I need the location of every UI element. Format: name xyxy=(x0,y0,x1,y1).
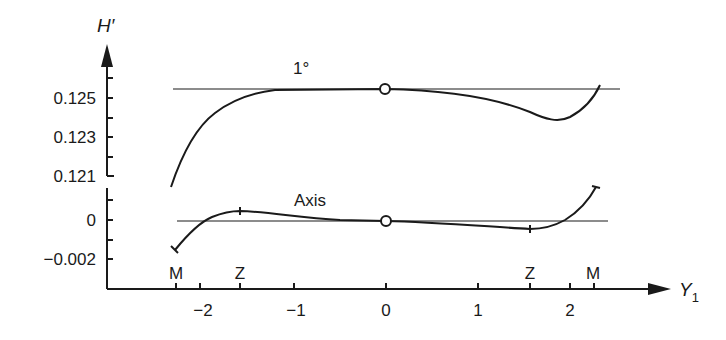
x-axis-label: Y1 xyxy=(679,279,699,305)
y-tick-0.123: 0.123 xyxy=(53,128,96,147)
y-axis-label: H′ xyxy=(97,15,116,36)
marker-m-right: M xyxy=(586,264,600,283)
y-tick-0.125: 0.125 xyxy=(53,89,96,108)
x-tick-0: 0 xyxy=(381,301,390,320)
x-tick-neg1: −1 xyxy=(286,301,305,320)
x-tick-1: 1 xyxy=(473,301,482,320)
x-axis-arrow-icon xyxy=(648,283,671,295)
x-tick-neg2: −2 xyxy=(193,301,212,320)
x-axis xyxy=(107,283,652,289)
upper-curve-label: 1° xyxy=(293,59,309,78)
y-axis-arrow-icon xyxy=(101,44,113,67)
lower-curve-label: Axis xyxy=(294,191,326,210)
y-axis-lower xyxy=(107,188,113,289)
y-tick-0.121: 0.121 xyxy=(53,167,96,186)
upper-circle-marker xyxy=(380,84,390,94)
x-axis-label-sub: 1 xyxy=(692,290,699,305)
y-tick-neg0.002: −0.002 xyxy=(44,250,96,269)
y-axis-upper xyxy=(107,62,114,176)
lower-circle-marker xyxy=(381,216,391,226)
marker-z-left: Z xyxy=(235,264,245,283)
marker-z-right: Z xyxy=(525,264,535,283)
x-tick-2: 2 xyxy=(565,301,574,320)
marker-m-left: M xyxy=(169,264,183,283)
y-tick-0: 0 xyxy=(87,211,96,230)
chart-canvas: H′ 0.125 0.123 0.121 0 −0.002 Y1 xyxy=(0,0,726,340)
upper-curve-1deg xyxy=(171,85,600,187)
